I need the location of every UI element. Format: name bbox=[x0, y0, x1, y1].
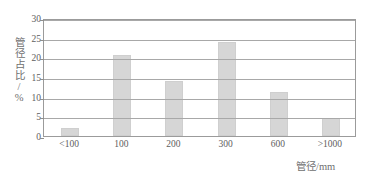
bar bbox=[165, 81, 183, 136]
y-axis-tick-mark bbox=[40, 79, 44, 80]
x-axis-tick-label: <100 bbox=[59, 139, 79, 149]
y-axis-tick-mark bbox=[40, 40, 44, 41]
chart-figure: 管径占比/% 051015202530 <100100200300600>100… bbox=[0, 0, 372, 180]
bar bbox=[218, 42, 236, 136]
bar bbox=[61, 128, 79, 136]
y-axis-tick-label: 30 bbox=[25, 14, 41, 24]
gridline bbox=[44, 99, 355, 100]
x-axis-tick-label: 300 bbox=[218, 139, 232, 149]
x-axis-tick-label: 200 bbox=[166, 139, 180, 149]
x-axis-tick-label: 100 bbox=[114, 139, 128, 149]
bar bbox=[322, 118, 340, 136]
y-axis-tick-label: 20 bbox=[25, 53, 41, 63]
y-axis-tick-label: 15 bbox=[25, 73, 41, 83]
y-axis-tick-label: 10 bbox=[25, 93, 41, 103]
gridline bbox=[44, 118, 355, 119]
gridline bbox=[44, 59, 355, 60]
gridline bbox=[44, 79, 355, 80]
gridline bbox=[44, 20, 355, 21]
y-axis-tick-mark bbox=[40, 20, 44, 21]
y-axis-tick-label: 5 bbox=[25, 112, 41, 122]
x-axis-tick-label: >1000 bbox=[318, 139, 342, 149]
y-axis-tick-mark bbox=[40, 118, 44, 119]
bar bbox=[113, 55, 131, 136]
y-axis-tick-label: 25 bbox=[25, 34, 41, 44]
y-axis-tick-labels: 051015202530 bbox=[25, 14, 41, 142]
x-axis-tick-label: 600 bbox=[271, 139, 285, 149]
plot-area bbox=[43, 19, 356, 137]
y-axis-tick-mark bbox=[40, 99, 44, 100]
y-axis-tick-mark bbox=[40, 59, 44, 60]
x-axis-title: 管径/mm bbox=[296, 158, 335, 173]
x-axis-tick-labels: <100100200300600>1000 bbox=[43, 139, 356, 153]
y-axis-tick-label: 0 bbox=[25, 132, 41, 142]
gridline bbox=[44, 40, 355, 41]
